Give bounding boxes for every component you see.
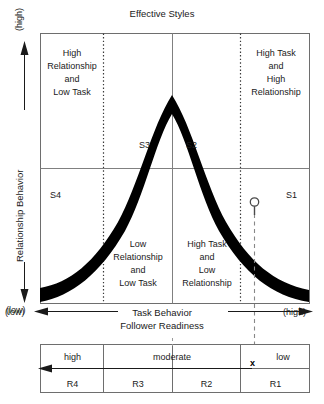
x-axis-subtitle: Follower Readiness	[0, 320, 324, 331]
style-label-s4: S4	[50, 190, 61, 200]
y-axis-arrow-down	[21, 289, 29, 303]
y-axis-title: Relationship Behavior	[14, 170, 25, 262]
readiness-level-high: high	[42, 352, 103, 362]
quadrant-label-bottom-right: High Task and Low Relationship	[174, 238, 240, 290]
quadrant-label-top-right: High Task and High Relationship	[243, 47, 309, 99]
readiness-position-marker: x	[250, 358, 255, 368]
readiness-level-low: low	[258, 352, 308, 362]
quadrant-label-top-left: High Relationship and Low Task	[42, 47, 102, 99]
readiness-code-r4: R4	[42, 379, 103, 389]
page-title: Effective Styles	[0, 8, 324, 19]
quadrant-label-bottom-left: Low Relationship and Low Task	[105, 238, 171, 290]
y-axis-arrow-up	[21, 41, 29, 55]
style-label-s3: S3	[139, 140, 150, 150]
readiness-level-moderate: moderate	[104, 352, 240, 362]
readiness-code-r3: R3	[104, 379, 172, 389]
readiness-code-r2: R2	[173, 379, 240, 389]
style-label-s2: S2	[186, 140, 197, 150]
y-axis-high-label: (high)	[14, 8, 25, 31]
readiness-code-r1: R1	[241, 379, 310, 389]
x-axis-title: Task Behavior	[0, 307, 324, 318]
marker-point-icon[interactable]	[250, 198, 258, 206]
style-label-s1: S1	[286, 190, 297, 200]
